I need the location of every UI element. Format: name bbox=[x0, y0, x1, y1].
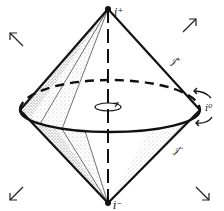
label-i-minus: i⁻ bbox=[113, 199, 123, 211]
label-scri-minus: 𝒥⁻ bbox=[172, 145, 184, 155]
label-i-zero: i⁰ bbox=[205, 102, 212, 113]
i-plus-point bbox=[105, 6, 111, 12]
i-minus-point bbox=[105, 200, 111, 206]
label-i-plus: i⁺ bbox=[114, 6, 124, 19]
shading bbox=[20, 9, 200, 203]
upper-right-edge bbox=[108, 9, 200, 110]
lower-right-edge bbox=[108, 110, 200, 203]
label-scri-plus: 𝒥⁺ bbox=[169, 56, 181, 66]
arrow-up-right-icon bbox=[183, 19, 196, 32]
arrow-down-left-icon bbox=[10, 187, 23, 200]
compactified-minkowski-diagram: i⁺ i⁻ i⁰ 𝒥⁺ 𝒥⁻ bbox=[0, 0, 224, 211]
arrow-down-right-icon bbox=[196, 187, 209, 200]
arrow-up-left-icon bbox=[10, 33, 23, 46]
